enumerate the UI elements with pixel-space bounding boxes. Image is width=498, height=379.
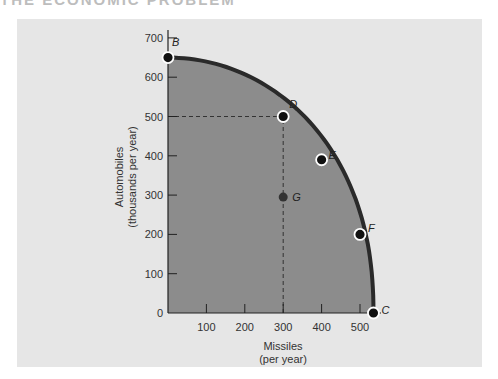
y-tick-label: 0 — [157, 307, 163, 319]
point-c — [368, 308, 379, 319]
x-tick-label: 500 — [351, 321, 369, 333]
y-tick-label: 100 — [145, 268, 163, 280]
y-tick-label: 400 — [145, 150, 163, 162]
ppf-chart: 0100200300400500600700100200300400500BDE… — [0, 0, 498, 379]
y-axis-title: Automobiles — [113, 146, 125, 207]
point-label-g: G — [292, 191, 301, 203]
point-d — [278, 111, 289, 122]
y-axis-subtitle: (thousands per year) — [126, 126, 138, 228]
point-label-b: B — [172, 36, 179, 48]
x-tick-label: 100 — [197, 321, 215, 333]
point-e — [316, 154, 327, 165]
point-g — [279, 193, 288, 202]
y-tick-label: 700 — [145, 32, 163, 44]
x-tick-label: 400 — [312, 321, 330, 333]
point-label-f: F — [368, 222, 376, 234]
y-tick-label: 200 — [145, 228, 163, 240]
point-label-d: D — [289, 98, 297, 110]
x-axis-subtitle: (per year) — [259, 353, 307, 365]
x-tick-label: 200 — [236, 321, 254, 333]
y-tick-label: 600 — [145, 71, 163, 83]
point-label-c: C — [381, 304, 389, 316]
x-axis-title: Missiles — [263, 340, 303, 352]
x-tick-label: 300 — [274, 321, 292, 333]
y-tick-label: 300 — [145, 189, 163, 201]
point-label-e: E — [329, 149, 337, 161]
point-b — [163, 52, 174, 63]
feasible-region — [168, 58, 373, 314]
point-f — [355, 229, 366, 240]
y-tick-label: 500 — [145, 111, 163, 123]
